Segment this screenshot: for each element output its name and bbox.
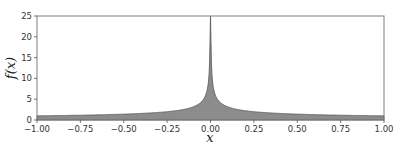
x-tick-label: −0.25 [154, 124, 180, 134]
y-axis-label: f(x) [3, 57, 18, 80]
y-axis-ticks: 0510152025 [21, 11, 37, 125]
y-tick-label: 10 [21, 73, 32, 83]
area-series [37, 16, 384, 120]
y-tick-label: 25 [21, 11, 32, 21]
x-tick-label: 0.75 [331, 124, 350, 134]
x-axis-label: x [206, 130, 214, 145]
y-tick-label: 20 [21, 32, 32, 42]
area-fill [37, 16, 384, 120]
x-tick-label: 0.25 [244, 124, 263, 134]
y-tick-label: 15 [21, 53, 32, 63]
chart: −1.00−0.75−0.50−0.250.000.250.500.751.00… [0, 0, 400, 149]
x-tick-label: −0.75 [67, 124, 93, 134]
x-tick-label: −1.00 [24, 124, 50, 134]
y-tick-label: 0 [27, 115, 32, 125]
x-tick-label: 1.00 [375, 124, 394, 134]
x-tick-label: −0.50 [111, 124, 137, 134]
y-tick-label: 5 [27, 94, 32, 104]
x-tick-label: 0.50 [288, 124, 307, 134]
